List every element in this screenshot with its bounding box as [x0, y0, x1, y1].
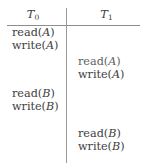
operation-argument: A	[46, 39, 54, 52]
column-divider-rule	[66, 8, 67, 163]
operation-argument: A	[112, 68, 120, 81]
t0-operation-read-b: read(B)	[12, 88, 55, 100]
operation-argument: B	[42, 87, 50, 100]
operation-argument: B	[112, 140, 120, 153]
t0-operation-write-a: write(A)	[12, 40, 58, 52]
t0-operation-read-a: read(A)	[12, 27, 55, 39]
column-header-t0-subscript: 0	[34, 13, 39, 22]
t1-operation-write-b: write(B)	[78, 141, 125, 153]
transaction-schedule-table: T0 T1 read(A) write(A) read(B) write(B) …	[0, 0, 146, 163]
t0-operation-write-b: write(B)	[12, 101, 59, 113]
t1-operation-write-a: write(A)	[78, 69, 124, 81]
column-header-t1-subscript: 1	[108, 13, 113, 22]
operation-argument: A	[42, 26, 50, 39]
t1-operation-read-b: read(B)	[78, 128, 121, 140]
operation-argument: B	[108, 127, 116, 140]
operation-argument: A	[108, 55, 116, 68]
column-header-t1-base: T	[100, 7, 108, 21]
operation-argument: B	[46, 100, 54, 113]
column-header-t1: T1	[67, 7, 146, 25]
column-header-t0: T0	[0, 7, 66, 25]
t1-operation-read-a: read(A)	[78, 56, 121, 68]
